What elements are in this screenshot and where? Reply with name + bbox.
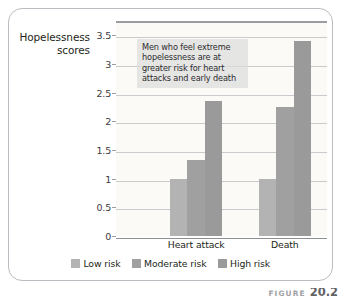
- bar: [205, 101, 223, 236]
- y-axis-tick-label: 0.5: [96, 202, 111, 213]
- legend-item: High risk: [218, 258, 271, 269]
- legend-swatch-icon: [132, 259, 141, 268]
- bar: [187, 160, 205, 236]
- y-axis-tick-label: 3.5: [96, 30, 111, 41]
- figure-caption: FIGURE 20.2: [0, 288, 346, 298]
- y-axis-tick-mark: [112, 179, 116, 180]
- x-axis-label: Death: [271, 239, 299, 250]
- legend-label: High risk: [230, 258, 270, 269]
- y-axis-tick-mark: [112, 236, 116, 237]
- annotation-line: hopelessness are at: [142, 52, 243, 62]
- y-axis-title: Hopelessness scores: [14, 31, 90, 56]
- bar: [259, 179, 277, 236]
- y-axis-tick-label: 2.5: [96, 87, 111, 98]
- figure-root: Hopelessness scores Men who feel extreme…: [0, 0, 346, 298]
- figure-caption-word: FIGURE: [268, 289, 305, 298]
- annotation-line: greater risk for heart: [142, 63, 243, 73]
- plot-area: Men who feel extremehopelessness are atg…: [116, 21, 327, 236]
- y-axis-tick-label: 1: [105, 173, 111, 184]
- y-axis-tick-mark: [112, 121, 116, 122]
- y-axis-tick-mark: [112, 150, 116, 151]
- legend-swatch-icon: [71, 259, 80, 268]
- y-axis-title-line2: scores: [14, 44, 90, 57]
- y-axis-tick-label: 2: [105, 116, 111, 127]
- chart-legend: Low riskModerate riskHigh risk: [8, 258, 333, 269]
- bar: [276, 107, 294, 236]
- y-axis-tick-mark: [112, 35, 116, 36]
- x-axis-labels: Heart attackDeath: [116, 239, 327, 253]
- legend-item: Low risk: [71, 258, 121, 269]
- y-axis-tick-mark: [112, 207, 116, 208]
- legend-label: Moderate risk: [144, 258, 207, 269]
- y-axis-tick-label: 0: [105, 231, 111, 242]
- y-axis-tick-mark: [112, 64, 116, 65]
- chart-annotation: Men who feel extremehopelessness are atg…: [137, 39, 248, 88]
- bar: [170, 179, 188, 236]
- y-axis-tick-mark: [112, 93, 116, 94]
- legend-item: Moderate risk: [132, 258, 207, 269]
- legend-swatch-icon: [218, 259, 227, 268]
- y-axis-tick-label: 1.5: [96, 145, 111, 156]
- y-axis-title-line1: Hopelessness: [19, 31, 90, 43]
- x-axis-label: Heart attack: [168, 239, 225, 250]
- annotation-line: Men who feel extreme: [142, 42, 243, 52]
- annotation-line: attacks and early death: [142, 73, 243, 83]
- bar: [294, 41, 312, 236]
- legend-label: Low risk: [83, 258, 120, 269]
- plot-wrapper: Men who feel extremehopelessness are atg…: [116, 21, 327, 236]
- figure-caption-number: 20.2: [310, 288, 338, 298]
- y-axis-tick-label: 3: [105, 59, 111, 70]
